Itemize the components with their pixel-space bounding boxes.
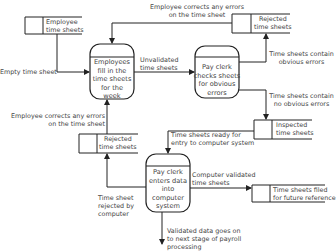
process-3-line: computer	[146, 194, 190, 203]
store-3-line: time sheets	[276, 129, 314, 137]
flow-label-line: on the time sheet	[0, 120, 105, 128]
flow-label-line: Computer validated	[192, 171, 256, 179]
flow-rejected-by-computer	[107, 154, 146, 187]
store-4-line: time sheets	[99, 143, 137, 151]
flow-label-line: on the time sheet	[132, 11, 262, 19]
flow-label-line: Time sheets contain	[268, 92, 335, 100]
store-5-label: Time sheets filed for future reference	[273, 186, 336, 202]
flow-label-line: Time sheets contain	[268, 50, 335, 58]
process-2-line: for obvious	[193, 80, 241, 89]
flow-label-rejected-by-computer: Time sheet rejected by computer	[98, 194, 134, 218]
store-3-label: Inspected time sheets	[276, 121, 314, 137]
flow-label-line: no obvious errors	[268, 100, 335, 108]
flow-label-line: Unvalidated	[140, 56, 178, 64]
process-3-label: Pay clerk enters data into computer syst…	[146, 168, 190, 211]
flow-label-line: Empty time sheet	[0, 68, 57, 76]
flow-label-line: time sheets	[140, 64, 178, 72]
flow-label-line: rejected by	[98, 202, 134, 210]
flow-label-line: Employee corrects any errors	[132, 3, 262, 11]
flow-label-ready-for-entry: Time sheets ready for entry to computer …	[171, 131, 254, 147]
flow-label-line: Time sheets ready for	[171, 131, 254, 139]
process-3-line: Pay clerk	[146, 168, 190, 177]
store-1-line: Employee	[46, 18, 84, 26]
process-3-line: system	[146, 202, 190, 211]
flow-label-line: time sheets	[192, 179, 256, 187]
store-1-line: time sheets	[46, 26, 84, 34]
process-3-line: enters data	[146, 177, 190, 186]
process-2-line: checks sheets	[193, 72, 241, 81]
store-1-label: Employee time sheets	[46, 18, 84, 34]
flow-label-line: Employee corrects any errors	[0, 112, 105, 120]
store-5-line: Time sheets filed	[273, 186, 336, 194]
store-4-label: Rejected time sheets	[99, 135, 137, 151]
store-2-line: time sheets	[254, 23, 292, 31]
flow-label-line: entry to computer system	[171, 139, 254, 147]
store-3-line: Inspected	[276, 121, 314, 129]
flow-label-unvalidated: Unvalidated time sheets	[140, 56, 178, 72]
flow-rejected-to-p1	[112, 23, 232, 43]
flow-label-line: obvious errors	[268, 58, 335, 66]
flow-label-next-stage: Validated data goes on to next stage of …	[167, 227, 241, 251]
store-5-line: for future reference	[273, 194, 336, 202]
flow-label-empty-time-sheet: Empty time sheet	[0, 68, 57, 76]
process-2-label: Pay clerk checks sheets for obvious erro…	[193, 63, 241, 97]
process-1-line: for the	[90, 84, 134, 93]
process-1-line: time sheets	[90, 75, 134, 84]
flow-label-line: processing	[167, 243, 241, 251]
flow-no-obvious-errors	[239, 90, 266, 119]
flow-store-to-p1	[57, 34, 89, 72]
flow-label-line: computer	[98, 210, 134, 218]
flow-obvious-errors	[239, 34, 266, 62]
flow-label-line: Time sheet	[98, 194, 134, 202]
flow-label-obvious-errors: Time sheets contain obvious errors	[268, 50, 335, 66]
store-4-line: Rejected	[99, 135, 137, 143]
flow-label-line: Validated data goes on	[167, 227, 241, 235]
process-1-label: Employees fill in the time sheets for th…	[90, 58, 134, 101]
process-1-line: week	[90, 92, 134, 101]
flow-label-line: to next stage of payroll	[167, 235, 241, 243]
flow-label-corrects-top: Employee corrects any errors on the time…	[132, 3, 262, 19]
flow-label-no-obvious-errors: Time sheets contain no obvious errors	[268, 92, 335, 108]
process-2-line: errors	[193, 89, 241, 98]
process-3-line: into	[146, 185, 190, 194]
flow-label-computer-validated: Computer validated time sheets	[192, 171, 256, 187]
process-1-line: Employees	[90, 58, 134, 67]
process-2-line: Pay clerk	[193, 63, 241, 72]
process-1-line: fill in the	[90, 67, 134, 76]
flow-label-corrects-left: Employee corrects any errors on the time…	[0, 112, 105, 128]
